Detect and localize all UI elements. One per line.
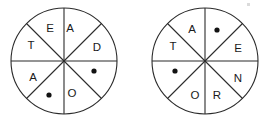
left-sector-dot-2 (91, 68, 96, 73)
right-sector-dot-0 (214, 27, 219, 32)
right-sector-label-7: A (188, 23, 196, 35)
left-sector-label-7: E (46, 22, 54, 34)
right-sector-label-4: O (191, 89, 200, 101)
right-sector-label-3: R (213, 89, 221, 101)
right-sector-label-6: T (169, 40, 176, 52)
left-sector-label-6: T (27, 39, 34, 51)
left-sector-label-1: D (93, 41, 101, 53)
left-sector-label-0: A (66, 22, 74, 34)
spinner-figure: A D O A T E E N R O T A (0, 0, 269, 122)
spinner-canvas: A D O A T E E N R O T A (0, 0, 269, 122)
right-spinner[interactable]: E N R O T A (152, 8, 258, 114)
left-sector-label-5: A (29, 71, 37, 83)
left-spinner[interactable]: A D O A T E (11, 8, 117, 114)
right-sector-label-2: N (234, 72, 242, 84)
right-sector-dot-5 (172, 68, 177, 73)
scan-speck-top-right (247, 3, 250, 6)
left-sector-label-3: O (68, 87, 77, 99)
right-sector-label-1: E (234, 42, 242, 54)
left-sector-dot-4 (46, 92, 51, 97)
